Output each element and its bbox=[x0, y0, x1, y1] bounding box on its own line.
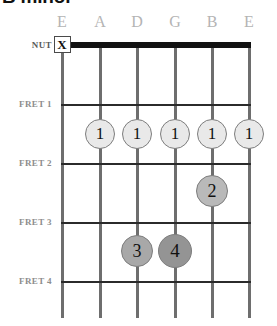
finger-dot-1-string-3-fret-1: 1 bbox=[160, 119, 190, 149]
finger-dot-1-string-2-fret-1: 1 bbox=[122, 119, 152, 149]
fret-line-3 bbox=[61, 222, 251, 224]
string-line-5 bbox=[248, 45, 251, 318]
fret-line-1 bbox=[61, 104, 251, 106]
fret-line-4 bbox=[61, 281, 251, 283]
string-line-0 bbox=[61, 45, 64, 318]
finger-dot-3-string-2-fret-3: 3 bbox=[121, 235, 153, 267]
finger-dot-1-string-4-fret-1: 1 bbox=[197, 119, 227, 149]
finger-dot-2-string-4-fret-2: 2 bbox=[196, 175, 228, 207]
fretboard: X11111234 bbox=[0, 0, 277, 326]
finger-dot-1-string-1-fret-1: 1 bbox=[85, 119, 115, 149]
finger-dot-1-string-5-fret-1: 1 bbox=[234, 119, 264, 149]
string-line-3 bbox=[174, 45, 177, 318]
fret-line-2 bbox=[61, 163, 251, 165]
nut-line bbox=[61, 42, 251, 48]
string-line-2 bbox=[136, 45, 139, 318]
finger-dot-4-string-3-fret-3: 4 bbox=[158, 234, 192, 268]
guitar-chord-diagram: B minor EADGBE NUTFRET 1FRET 2FRET 3FRET… bbox=[0, 0, 277, 326]
string-line-1 bbox=[99, 45, 102, 318]
muted-string-marker-0: X bbox=[54, 36, 71, 53]
